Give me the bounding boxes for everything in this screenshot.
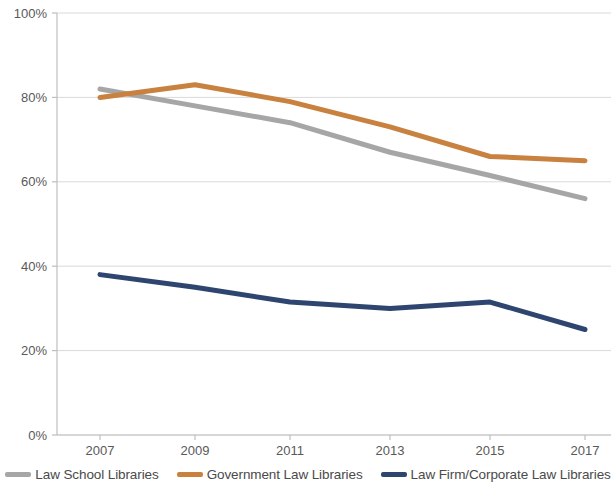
y-axis-labels: 0%20%40%60%80%100% [14,6,48,443]
y-axis-tick-label: 40% [21,259,47,274]
series-line [100,85,585,161]
x-axis-tick-label: 2017 [571,443,600,458]
x-axis-tick-label: 2015 [476,443,505,458]
legend-item-label: Law Firm/Corporate Law Libraries [411,467,611,482]
y-axis-tick-label: 60% [21,174,47,189]
gridlines [57,13,611,435]
y-axis-tick-label: 0% [28,428,47,443]
legend-swatch-icon [177,472,203,477]
legend-item[interactable]: Government Law Libraries [177,467,363,482]
axis-lines [57,13,611,435]
x-axis-tick-label: 2011 [276,443,304,458]
legend-item[interactable]: Law School Libraries [5,467,158,482]
chart-legend: Law School LibrariesGovernment Law Libra… [0,462,616,487]
x-axis-labels: 200720092011201320152017 [86,443,600,458]
line-chart: 0%20%40%60%80%100% 200720092011201320152… [0,0,616,487]
legend-item-label: Law School Libraries [35,467,158,482]
x-axis-tick-label: 2007 [86,443,115,458]
data-series-group [100,85,585,330]
legend-item[interactable]: Law Firm/Corporate Law Libraries [381,467,611,482]
legend-item-label: Government Law Libraries [207,467,363,482]
x-axis-tick-label: 2013 [376,443,405,458]
series-line [100,275,585,330]
y-axis-tick-label: 20% [21,343,47,358]
y-axis-tick-label: 100% [14,6,48,21]
chart-plot-area: 0%20%40%60%80%100% 200720092011201320152… [0,0,616,487]
legend-swatch-icon [381,472,407,477]
legend-swatch-icon [5,472,31,477]
x-axis-tick-label: 2009 [181,443,210,458]
axis-ticks [52,13,585,440]
y-axis-tick-label: 80% [21,90,47,105]
